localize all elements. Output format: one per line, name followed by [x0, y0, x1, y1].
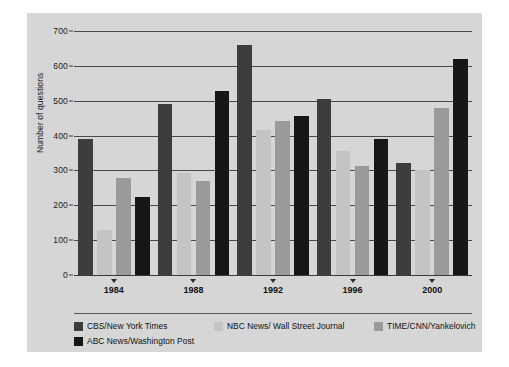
legend-label: NBC News/ Wall Street Journal [227, 321, 345, 331]
legend-label: CBS/New York Times [87, 321, 168, 331]
x-tick-label: 1988 [183, 285, 203, 295]
chart-legend: CBS/New York TimesNBC News/ Wall Street … [74, 321, 484, 351]
y-tick-label: 0 [63, 270, 68, 280]
legend-label: TIME/CNN/Yankelovich [387, 321, 475, 331]
y-tick-label: 500 [53, 96, 68, 106]
bar [374, 139, 389, 275]
bar-group [396, 31, 468, 275]
x-tick-marker [190, 279, 196, 283]
bar [215, 91, 230, 275]
legend-label: ABC News/Washington Post [87, 336, 194, 346]
bar [355, 166, 370, 275]
bar [453, 59, 468, 275]
x-tick-label: 1984 [104, 285, 124, 295]
y-tick-label: 400 [53, 131, 68, 141]
bar-group [158, 31, 230, 275]
x-tick-label: 2000 [422, 285, 442, 295]
x-tick-marker [270, 279, 276, 283]
y-tick-mark [69, 100, 73, 101]
bar [434, 108, 449, 275]
y-tick-mark [69, 65, 73, 66]
legend-swatch-icon [74, 322, 83, 331]
bar [396, 163, 411, 275]
x-tick-label: 1996 [343, 285, 363, 295]
y-tick-label: 100 [53, 235, 68, 245]
legend-row-2: ABC News/Washington Post [74, 336, 484, 351]
y-tick-mark [69, 275, 73, 276]
y-tick-mark [69, 240, 73, 241]
x-tick-marker [350, 279, 356, 283]
y-axis-label: Number of questions [35, 73, 45, 153]
legend-row-1: CBS/New York TimesNBC News/ Wall Street … [74, 321, 484, 336]
x-tick-marker [429, 279, 435, 283]
legend-swatch-icon [374, 322, 383, 331]
bar-group [237, 31, 309, 275]
y-tick-mark [69, 135, 73, 136]
legend-item[interactable]: ABC News/Washington Post [74, 336, 194, 346]
bar [116, 178, 131, 275]
legend-divider [74, 313, 472, 314]
x-tick-marker [111, 279, 117, 283]
bar [294, 116, 309, 275]
legend-item[interactable]: TIME/CNN/Yankelovich [374, 321, 475, 331]
chart-figure: Number of questions 01002003004005006007… [0, 0, 509, 367]
bar [97, 230, 112, 275]
bar [317, 99, 332, 275]
bar-group [78, 31, 150, 275]
y-tick-label: 300 [53, 165, 68, 175]
y-tick-mark [69, 205, 73, 206]
legend-item[interactable]: NBC News/ Wall Street Journal [214, 321, 345, 331]
bar [415, 170, 430, 275]
bar [135, 197, 150, 275]
legend-swatch-icon [74, 337, 83, 346]
legend-swatch-icon [214, 322, 223, 331]
x-axis-line [74, 275, 472, 276]
x-tick-label: 1992 [263, 285, 283, 295]
y-tick-mark [69, 31, 73, 32]
bar-group [317, 31, 389, 275]
bar [158, 104, 173, 275]
bar [256, 130, 271, 275]
bar [237, 45, 252, 275]
plot-area: 0100200300400500600700 19841988199219962… [74, 31, 472, 276]
y-tick-label: 200 [53, 200, 68, 210]
y-tick-label: 700 [53, 26, 68, 36]
bar [177, 173, 192, 275]
chart-panel: Number of questions 01002003004005006007… [27, 13, 482, 352]
bar [275, 121, 290, 275]
y-tick-label: 600 [53, 61, 68, 71]
bar [336, 151, 351, 275]
legend-item[interactable]: CBS/New York Times [74, 321, 168, 331]
bar [78, 139, 93, 275]
bar [196, 181, 211, 275]
y-tick-mark [69, 170, 73, 171]
